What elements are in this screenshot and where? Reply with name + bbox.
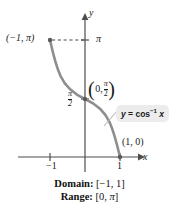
range-line: Range: [0, π] [0, 191, 179, 202]
y-tick-label-pi-half: π 2 [68, 90, 72, 109]
domain-line: Domain: [−1, 1] [0, 178, 179, 189]
open-paren: ( [88, 81, 95, 98]
equation-function: cos [135, 109, 150, 119]
point-marker-0-pihalf [83, 97, 87, 101]
point-mid-denominator: 2 [104, 90, 108, 98]
domain-range-caption: Domain: [−1, 1] Range: [0, π] [0, 178, 179, 204]
domain-value: [−1, 1] [96, 178, 125, 189]
point-label-1-0: (1, 0) [122, 137, 144, 147]
range-value: [0, π] [95, 191, 118, 202]
x-tick-label-1: 1 [117, 161, 122, 171]
point-label-0-pihalf: ( 0, π 2 ) [88, 80, 115, 99]
point-mid-numerator: π [104, 80, 108, 88]
point-marker-neg1-pi [48, 38, 52, 42]
domain-key: Domain: [54, 178, 93, 189]
point-marker-1-0 [118, 155, 122, 159]
y-axis-label: y [89, 8, 93, 18]
arccos-graph-figure: y x −1 1 π π 2 (−1, π) ( 0, π 2 ) (1, 0)… [0, 0, 179, 213]
equation-argument: x [159, 109, 164, 119]
equation-exponent: −1 [150, 108, 157, 114]
pi-half-denominator: 2 [68, 100, 72, 108]
x-axis [18, 154, 145, 161]
point-mid-inner: 0, π 2 [95, 80, 109, 99]
point-mid-x-value: 0, [95, 84, 104, 94]
x-axis-label: x [143, 152, 147, 162]
equation-equals: = [126, 109, 136, 119]
pi-half-fraction: π 2 [68, 90, 72, 109]
range-value-open: [0, [95, 191, 109, 202]
point-label-neg1-pi: (−1, π) [6, 33, 34, 43]
pi-half-numerator: π [68, 90, 72, 98]
x-tick-label-neg1: −1 [46, 161, 57, 171]
y-tick-label-pi: π [96, 34, 101, 44]
equation-callout-box: y = cos−1 x [116, 105, 169, 122]
range-key: Range: [61, 191, 93, 202]
range-value-close: ] [115, 191, 119, 202]
close-paren: ) [108, 81, 115, 98]
point-mid-y-fraction: π 2 [104, 80, 108, 99]
